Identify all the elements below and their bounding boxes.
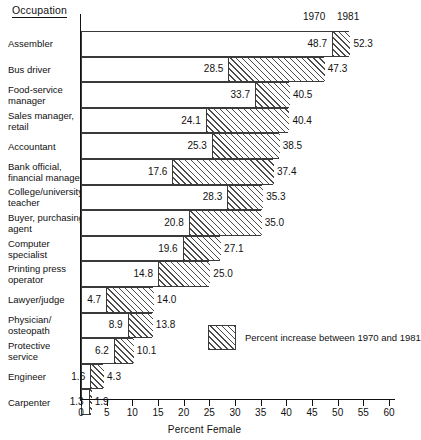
x-tick-label: 50 <box>326 407 350 418</box>
bar-increase-segment <box>212 134 280 158</box>
x-axis-title: Percent Female <box>0 424 409 435</box>
x-tick-label: 15 <box>146 407 170 418</box>
value-label-1981: 10.1 <box>137 345 156 356</box>
value-label-1970: 33.7 <box>208 89 250 100</box>
value-label-1981: 40.5 <box>293 89 312 100</box>
x-tick-mark <box>107 400 108 406</box>
year-header-1981: 1981 <box>337 11 359 22</box>
x-tick-label: 25 <box>197 407 221 418</box>
value-label-1970: 6.2 <box>67 345 109 356</box>
x-tick-label: 20 <box>172 407 196 418</box>
occupation-label: Bank official, financial manager <box>8 161 83 183</box>
x-tick-label: 45 <box>300 407 324 418</box>
bar-increase-segment <box>114 339 134 363</box>
value-label-1970: 24.1 <box>159 115 201 126</box>
value-label-1981: 52.3 <box>353 38 372 49</box>
occupation-label: Protective service <box>8 340 50 362</box>
x-tick-mark <box>312 400 313 406</box>
year-header-group: 1970 1981 <box>0 11 409 25</box>
value-label-1970: 17.6 <box>125 166 167 177</box>
x-tick-mark <box>132 400 133 406</box>
x-tick-label: 5 <box>95 407 119 418</box>
bar-increase-segment <box>172 160 274 184</box>
value-label-1981: 13.8 <box>156 319 175 330</box>
occupation-label: Assembler <box>8 38 53 49</box>
year-header-1970: 1970 <box>303 11 325 22</box>
value-label-1981: 38.5 <box>283 140 302 151</box>
occupation-label: Lawyer/judge <box>8 294 65 305</box>
bar-increase-segment <box>332 32 350 56</box>
value-label-1981: 35.0 <box>265 217 284 228</box>
x-tick-mark <box>261 400 262 406</box>
value-label-1970: 28.5 <box>181 63 223 74</box>
value-label-1970: 14.8 <box>111 268 153 279</box>
bar-increase-segment <box>106 288 154 312</box>
value-label-1981: 14.0 <box>157 294 176 305</box>
value-label-1970: 48.7 <box>285 38 327 49</box>
value-label-1981: 27.1 <box>224 243 243 254</box>
bar-increase-segment <box>206 109 290 133</box>
x-tick-label: 60 <box>377 407 401 418</box>
value-label-1981: 40.4 <box>292 115 311 126</box>
x-axis-line <box>80 399 395 400</box>
value-label-1970: 20.8 <box>142 217 184 228</box>
occupation-label: College/university teacher <box>8 186 83 208</box>
value-label-1981: 47.3 <box>328 63 347 74</box>
occupation-label: Bus driver <box>8 64 51 75</box>
x-tick-mark <box>158 400 159 406</box>
value-label-1970: 8.9 <box>81 319 123 330</box>
x-tick-label: 35 <box>249 407 273 418</box>
x-tick-label: 40 <box>274 407 298 418</box>
occupation-label: Food-service manager <box>8 84 63 106</box>
bar-increase-segment <box>158 262 210 286</box>
x-tick-mark <box>286 400 287 406</box>
x-tick-mark <box>81 400 82 406</box>
bar-1981-total <box>81 185 262 211</box>
bar-increase-segment <box>183 237 222 261</box>
x-tick-mark <box>363 400 364 406</box>
occupation-label: Printing press operator <box>8 263 66 285</box>
value-label-1970: 4.7 <box>59 294 101 305</box>
x-tick-label: 30 <box>223 407 247 418</box>
value-label-1981: 37.4 <box>277 166 296 177</box>
value-label-1981: 25.0 <box>213 268 232 279</box>
bar-increase-segment <box>189 211 262 235</box>
value-label-1970: 19.6 <box>136 243 178 254</box>
occupation-label: Physician/ osteopath <box>8 314 51 336</box>
value-label-1970: 25.3 <box>165 140 207 151</box>
x-tick-label: 0 <box>69 407 93 418</box>
value-label-1981: 35.3 <box>266 191 285 202</box>
bar-increase-segment <box>227 186 263 210</box>
x-tick-mark <box>235 400 236 406</box>
value-label-1970: 1.6 <box>43 371 85 382</box>
bar-increase-segment <box>255 83 290 107</box>
x-tick-mark <box>184 400 185 406</box>
occupation-label: Accountant <box>8 141 56 152</box>
value-label-1970: 28.3 <box>180 191 222 202</box>
x-tick-label: 55 <box>351 407 375 418</box>
x-tick-label: 10 <box>120 407 144 418</box>
x-tick-mark <box>389 400 390 406</box>
occupation-label: Engineer <box>8 371 46 382</box>
value-label-1981: 4.3 <box>107 371 121 382</box>
occupation-label: Buyer, purchasing agent <box>8 212 84 234</box>
value-label-1970: 1.3 <box>42 396 84 407</box>
bar-increase-segment <box>228 58 325 82</box>
x-tick-mark <box>338 400 339 406</box>
bar-increase-segment <box>90 365 104 389</box>
bar-1981-total <box>81 82 289 108</box>
x-tick-mark <box>209 400 210 406</box>
occupation-label: Computer specialist <box>8 238 50 260</box>
legend-hatch-swatch <box>208 325 236 350</box>
legend-label: Percent increase between 1970 and 1981 <box>245 332 421 343</box>
occupation-label: Sales manager, retail <box>8 110 74 132</box>
bar-increase-segment <box>128 314 153 338</box>
bar-1981-total <box>81 159 273 185</box>
